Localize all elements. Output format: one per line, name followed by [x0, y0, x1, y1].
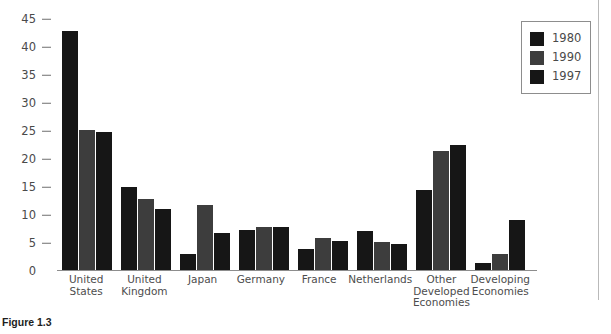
- y-tick-label: 20: [14, 153, 36, 165]
- bar: [433, 151, 449, 270]
- legend-swatch: [530, 51, 544, 65]
- y-tick-mark: [42, 242, 51, 243]
- bar: [138, 199, 154, 270]
- page-margin-rule: [598, 0, 599, 300]
- bar-group: [294, 18, 353, 270]
- y-tick-mark: [42, 46, 51, 47]
- legend-swatch: [530, 32, 544, 46]
- y-tick-mark: [42, 214, 51, 215]
- bar-group: [57, 18, 116, 270]
- x-axis-label: Developing Economies: [471, 274, 530, 309]
- bar: [416, 190, 432, 270]
- bar: [239, 230, 255, 270]
- chart-plot-area: 051015202530354045: [57, 18, 530, 271]
- x-axis-label: United Kingdom: [115, 274, 173, 309]
- y-tick-label: 35: [14, 69, 36, 81]
- y-tick-mark: [42, 102, 51, 103]
- legend-label: 1980: [552, 33, 581, 45]
- y-tick-mark: [42, 158, 51, 159]
- bar: [197, 205, 213, 270]
- y-tick-label: 40: [14, 41, 36, 53]
- x-axis-label: France: [290, 274, 348, 309]
- figure-1-3: 051015202530354045 United StatesUnited K…: [0, 0, 611, 334]
- bar-group: [234, 18, 293, 270]
- bar: [256, 227, 272, 270]
- y-tick-label: 45: [14, 13, 36, 25]
- figure-caption: Figure 1.3: [2, 316, 52, 328]
- x-axis-label: Germany: [232, 274, 290, 309]
- y-tick-10: 10: [14, 209, 57, 221]
- bar-group: [412, 18, 471, 270]
- bar: [315, 238, 331, 270]
- y-tick-25: 25: [14, 125, 57, 137]
- y-tick-45: 45: [14, 13, 57, 25]
- y-tick-5: 5: [14, 237, 57, 249]
- bar: [298, 249, 314, 270]
- bar: [492, 254, 508, 270]
- x-axis-label: Netherlands: [348, 274, 412, 309]
- y-tick-label: 10: [14, 209, 36, 221]
- bar: [509, 220, 525, 270]
- bar: [374, 242, 390, 270]
- bar-group: [353, 18, 412, 270]
- x-axis-label: United States: [57, 274, 115, 309]
- x-axis-label: Japan: [174, 274, 232, 309]
- legend-swatch: [530, 70, 544, 84]
- bar: [357, 231, 373, 270]
- bar: [391, 244, 407, 270]
- legend-label: 1997: [552, 71, 581, 83]
- x-axis-baseline: [57, 270, 537, 271]
- y-tick-30: 30: [14, 97, 57, 109]
- bar: [96, 132, 112, 270]
- y-tick-label: 5: [14, 237, 36, 249]
- legend-rows: 198019901997: [530, 29, 581, 86]
- y-tick-35: 35: [14, 69, 57, 81]
- y-tick-15: 15: [14, 181, 57, 193]
- bar: [180, 254, 196, 270]
- y-tick-20: 20: [14, 153, 57, 165]
- bar-group: [175, 18, 234, 270]
- y-tick-label: 30: [14, 97, 36, 109]
- bar: [214, 233, 230, 270]
- y-tick-label: 15: [14, 181, 36, 193]
- x-axis-label: Other Developed Economies: [412, 274, 470, 309]
- bar: [450, 145, 466, 270]
- bar: [332, 241, 348, 270]
- bar: [475, 263, 491, 270]
- y-tick-label: 25: [14, 125, 36, 137]
- legend-item-1980: 1980: [530, 29, 581, 48]
- legend-label: 1990: [552, 52, 581, 64]
- y-tick-0: 0: [14, 265, 57, 277]
- y-tick-mark: [42, 18, 51, 19]
- y-tick-mark: [42, 270, 51, 271]
- x-axis-category-labels: United StatesUnited KingdomJapanGermanyF…: [57, 274, 530, 309]
- bar: [155, 209, 171, 270]
- y-tick-40: 40: [14, 41, 57, 53]
- bar: [121, 187, 137, 270]
- chart-legend: 198019901997: [521, 21, 591, 94]
- y-tick-mark: [42, 186, 51, 187]
- bar-group: [116, 18, 175, 270]
- y-tick-mark: [42, 74, 51, 75]
- y-tick-label: 0: [14, 265, 36, 277]
- legend-item-1997: 1997: [530, 67, 581, 86]
- bar: [62, 31, 78, 270]
- bar: [273, 227, 289, 270]
- bar: [79, 130, 95, 270]
- legend-item-1990: 1990: [530, 48, 581, 67]
- bar-groups: [57, 18, 530, 270]
- y-tick-mark: [42, 130, 51, 131]
